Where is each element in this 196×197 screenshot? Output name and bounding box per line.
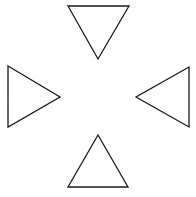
- triangle-top-pointing-down-icon: [68, 6, 129, 59]
- diagram-canvas: down right left up: [0, 0, 196, 197]
- triangle-left-pointing-right-icon: [8, 66, 60, 127]
- four-triangles-diagram: [0, 0, 196, 197]
- triangle-right-pointing-left-icon: [136, 67, 189, 127]
- triangle-bottom-pointing-up-icon: [68, 135, 128, 187]
